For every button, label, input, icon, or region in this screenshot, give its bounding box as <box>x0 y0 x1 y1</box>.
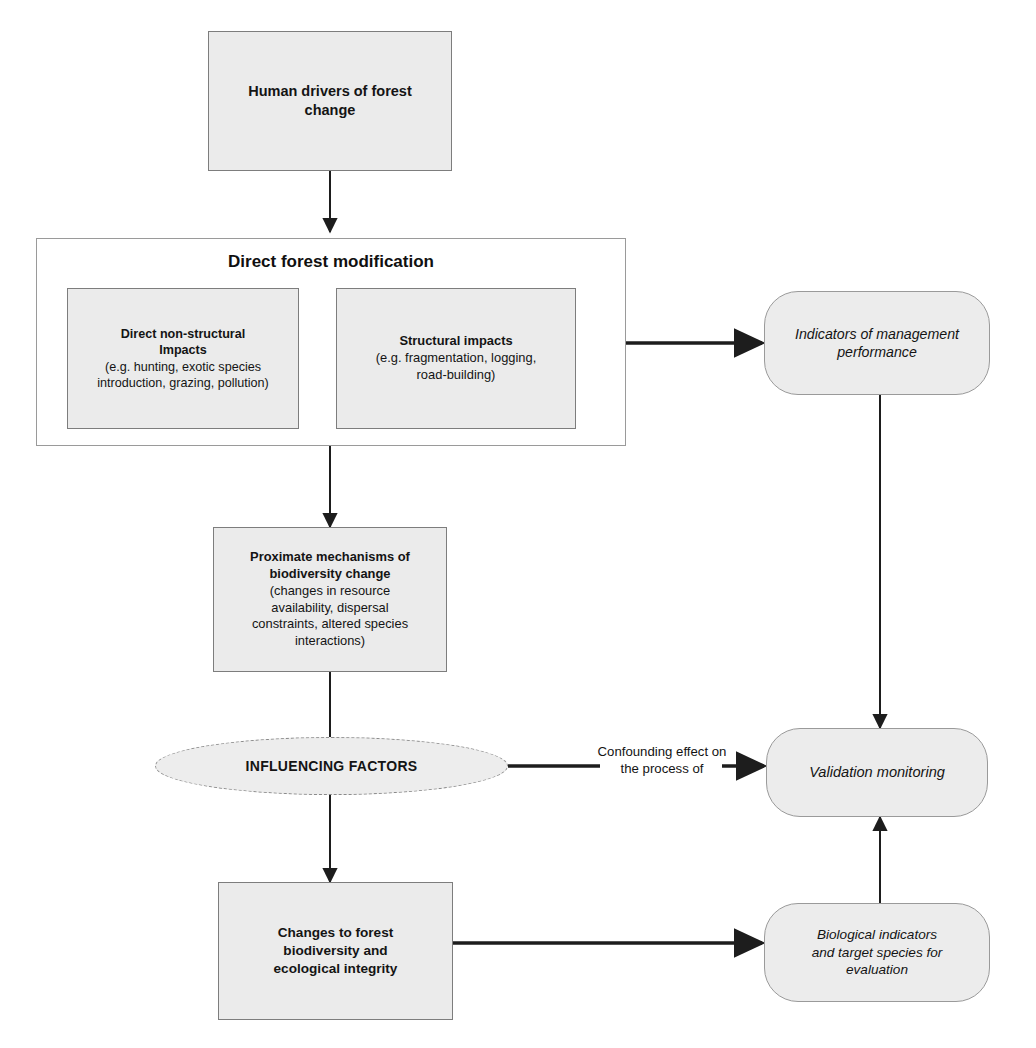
node-validation-monitoring-label: Validation monitoring <box>803 763 951 782</box>
node-structural-impacts-title: Structural impacts <box>393 333 518 350</box>
node-changes-to-forest-label: Changes to forest biodiversity and ecolo… <box>268 924 404 977</box>
node-influencing-factors[interactable]: INFLUENCING FACTORS <box>155 737 508 795</box>
node-human-drivers-label: Human drivers of forest change <box>242 82 418 120</box>
node-changes-to-forest[interactable]: Changes to forest biodiversity and ecolo… <box>218 882 453 1020</box>
node-human-drivers[interactable]: Human drivers of forest change <box>208 31 452 171</box>
node-non-structural-impacts[interactable]: Direct non-structural Impacts (e.g. hunt… <box>67 288 299 429</box>
node-direct-forest-modification-heading: Direct forest modification <box>36 252 626 272</box>
node-influencing-factors-label: INFLUENCING FACTORS <box>240 757 424 775</box>
node-indicators-of-management-performance[interactable]: Indicators of management performance <box>764 291 990 395</box>
flowchart-canvas: Human drivers of forest change Direct fo… <box>0 0 1036 1048</box>
node-proximate-mechanisms-title: Proximate mechanisms of biodiversity cha… <box>244 549 416 583</box>
node-non-structural-impacts-detail: (e.g. hunting, exotic species introducti… <box>91 359 275 392</box>
node-structural-impacts[interactable]: Structural impacts (e.g. fragmentation, … <box>336 288 576 429</box>
connector-layer <box>0 0 1036 1048</box>
node-non-structural-impacts-title: Direct non-structural Impacts <box>115 326 252 359</box>
edge-label-confounding-effect: Confounding effect on the process of <box>592 744 732 777</box>
node-validation-monitoring[interactable]: Validation monitoring <box>766 728 988 817</box>
node-proximate-mechanisms[interactable]: Proximate mechanisms of biodiversity cha… <box>213 527 447 672</box>
node-biological-indicators-label: Biological indicators and target species… <box>806 926 949 979</box>
node-indicators-of-management-performance-label: Indicators of management performance <box>789 325 965 362</box>
node-structural-impacts-detail: (e.g. fragmentation, logging, road-build… <box>370 350 543 384</box>
node-biological-indicators[interactable]: Biological indicators and target species… <box>764 903 990 1002</box>
node-proximate-mechanisms-detail: (changes in resource availability, dispe… <box>246 583 414 650</box>
